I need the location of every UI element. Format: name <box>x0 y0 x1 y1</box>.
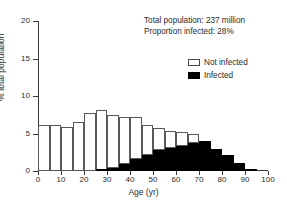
chart-bar <box>234 163 246 171</box>
x-tick-label: 80 <box>218 176 227 184</box>
bar-segment-not-infected <box>176 132 188 146</box>
chart-bar <box>73 122 85 172</box>
bar-segment-not-infected <box>73 122 85 172</box>
chart-bar <box>107 115 119 171</box>
annotation-proportion-infected: Proportion infected: 28% <box>144 27 245 38</box>
bar-segment-not-infected <box>84 113 96 172</box>
x-tick-label: 0 <box>36 176 40 184</box>
chart-bar <box>153 128 165 171</box>
chart-bar <box>50 125 62 171</box>
chart-bar <box>119 117 131 171</box>
legend-label-not-infected: Not infected <box>204 57 248 68</box>
bar-segment-not-infected <box>61 127 73 171</box>
chart-bar <box>130 117 142 171</box>
y-tick-label: 20 <box>21 17 30 25</box>
bar-segment-not-infected <box>50 125 62 171</box>
annotation-total-population: Total population: 237 million <box>144 16 245 27</box>
bar-segment-not-infected <box>107 115 119 168</box>
chart-bar <box>38 125 50 171</box>
bar-segment-not-infected <box>165 131 177 148</box>
chart-bar <box>211 149 223 171</box>
legend-label-infected: Infected <box>204 70 233 81</box>
bar-segment-not-infected <box>119 117 131 164</box>
y-tick-label: 10 <box>21 92 30 100</box>
bar-segment-infected <box>153 150 165 171</box>
bar-segment-not-infected <box>38 125 50 171</box>
bar-segment-infected <box>165 148 177 171</box>
chart-bar <box>84 113 96 172</box>
x-tick-label: 60 <box>172 176 181 184</box>
x-tick-label: 70 <box>195 176 204 184</box>
x-tick-label: 10 <box>57 176 66 184</box>
bar-segment-infected <box>119 164 131 171</box>
bar-segment-infected <box>107 168 119 171</box>
bar-segment-infected <box>188 143 200 171</box>
x-tick-label: 50 <box>149 176 158 184</box>
bar-segment-not-infected <box>130 117 142 159</box>
x-tick-label: 40 <box>126 176 135 184</box>
bar-segment-infected <box>211 149 223 171</box>
y-tick-label: 5 <box>26 130 30 138</box>
bar-segment-infected <box>199 141 211 171</box>
chart-bar <box>222 155 234 172</box>
legend-swatch-not-infected <box>188 59 200 66</box>
chart-bar <box>96 110 108 171</box>
chart-bar <box>188 134 200 172</box>
x-tick-label: 90 <box>241 176 250 184</box>
chart-bar <box>61 127 73 171</box>
y-tick-label: 15 <box>21 55 30 63</box>
bar-segment-infected <box>142 155 154 172</box>
x-tick-label: 100 <box>261 176 274 184</box>
bar-segment-not-infected <box>153 128 165 150</box>
chart-legend: Not infected Infected <box>188 57 248 83</box>
chart-annotation: Total population: 237 million Proportion… <box>144 16 245 37</box>
plot-area <box>38 21 268 171</box>
bar-segment-infected <box>130 159 142 171</box>
legend-item-infected: Infected <box>188 70 248 81</box>
chart-figure: 05101520 0102030405060708090100 % total … <box>0 0 287 202</box>
chart-bar <box>142 125 154 172</box>
bar-segment-not-infected <box>96 110 108 169</box>
bar-segment-not-infected <box>142 125 154 155</box>
x-tick-label: 30 <box>103 176 112 184</box>
chart-bar <box>245 170 257 172</box>
chart-bar <box>165 131 177 171</box>
bar-segment-not-infected <box>188 134 200 144</box>
bar-segment-infected <box>176 146 188 172</box>
bar-segment-infected <box>96 169 108 171</box>
legend-swatch-infected <box>188 72 200 79</box>
y-axis-title: % total population <box>0 33 6 101</box>
bar-segment-infected <box>234 163 246 171</box>
bar-segment-infected <box>245 169 257 171</box>
chart-bar <box>199 141 211 171</box>
legend-item-not-infected: Not infected <box>188 57 248 68</box>
x-tick-label: 20 <box>80 176 89 184</box>
y-tick-label: 0 <box>26 167 30 175</box>
x-axis-title: Age (yr) <box>0 187 287 197</box>
bar-segment-infected <box>222 155 234 172</box>
chart-bar <box>176 132 188 171</box>
